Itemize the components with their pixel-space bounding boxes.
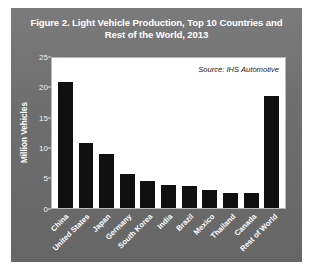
y-axis-tick-label: 25 — [39, 52, 48, 61]
bar-slot — [76, 58, 97, 208]
source-annotation: Source: IHS Automotive — [198, 65, 279, 74]
x-axis-label-slot: Rest of World — [262, 211, 283, 255]
bar-slot — [138, 58, 159, 208]
y-axis-tick-label: 20 — [39, 83, 48, 92]
bar-slot — [158, 58, 179, 208]
y-axis-title: Million Vehicles — [17, 57, 31, 209]
bar — [161, 185, 176, 208]
bar — [202, 190, 217, 208]
y-axis-title-label: Million Vehicles — [20, 102, 29, 163]
page-title: Figure 2. Light Vehicle Production, Top … — [11, 8, 302, 49]
bars-layer — [52, 58, 285, 208]
bar — [223, 193, 238, 208]
plot-area: Source: IHS Automotive — [51, 57, 286, 209]
y-axis: 0510152025 — [37, 57, 51, 209]
bar-slot — [117, 58, 138, 208]
bar — [58, 82, 73, 208]
figure-panel: Figure 2. Light Vehicle Production, Top … — [11, 8, 302, 262]
bar — [264, 96, 279, 208]
x-axis-tick-label: India — [156, 212, 175, 231]
bar-slot — [241, 58, 262, 208]
bar — [140, 181, 155, 207]
bar-slot — [179, 58, 200, 208]
bar — [244, 193, 259, 207]
bar-slot — [261, 58, 282, 208]
x-axis-label-slot: India — [158, 211, 179, 255]
y-axis-tick-label: 10 — [39, 144, 48, 153]
bar-slot — [55, 58, 76, 208]
bar — [182, 186, 197, 208]
chart-body: Million Vehicles 0510152025 Source: IHS … — [21, 49, 292, 254]
bar-slot — [199, 58, 220, 208]
x-axis-label-slot: United States — [75, 211, 96, 255]
bar — [99, 154, 114, 208]
y-axis-tick-label: 15 — [39, 113, 48, 122]
bar — [79, 143, 94, 208]
x-axis-labels: ChinaUnited StatesJapanGermanySouth Kore… — [51, 211, 286, 255]
bar-slot — [220, 58, 241, 208]
x-axis-label-slot: South Korea — [137, 211, 158, 255]
bar — [120, 174, 135, 208]
bar-slot — [96, 58, 117, 208]
